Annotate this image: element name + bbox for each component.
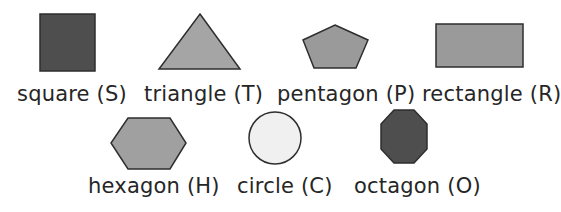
triangle-shape — [156, 11, 244, 73]
octagon-shape — [378, 107, 430, 167]
rectangle-label: rectangle (R) — [422, 84, 561, 105]
pentagon-label: pentagon (P) — [277, 84, 415, 105]
triangle-label: triangle (T) — [144, 84, 263, 105]
pentagon-shape — [300, 22, 372, 72]
hexagon-label: hexagon (H) — [88, 176, 220, 197]
circle-shape — [246, 109, 304, 167]
octagon-label: octagon (O) — [354, 176, 481, 197]
rectangle-shape — [434, 22, 526, 70]
hexagon-shape — [108, 115, 190, 173]
circle-label: circle (C) — [237, 176, 333, 197]
square-label: square (S) — [17, 84, 127, 105]
square-shape — [38, 12, 98, 74]
